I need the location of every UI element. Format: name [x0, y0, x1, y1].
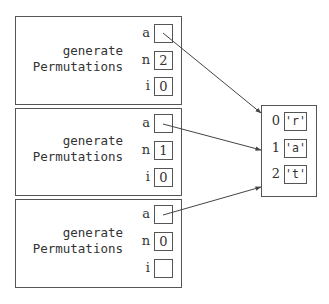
- frame-3-var-i-label: i: [138, 259, 150, 277]
- frame-3-name-line1: generate: [30, 225, 123, 241]
- frame-1-var-i-box: 0: [154, 77, 173, 96]
- array-index-2: 2: [268, 165, 280, 183]
- frame-3-var-a-box: [154, 205, 173, 224]
- frame-3-var-n-box: 0: [154, 232, 173, 251]
- frame-2-var-i-box: 0: [154, 168, 173, 187]
- array-index-1: 1: [268, 139, 280, 157]
- frame-2-var-i-label: i: [138, 168, 150, 186]
- frame-3-var-i-box: [154, 259, 173, 278]
- frame-1-var-a-box: [154, 24, 173, 43]
- frame-2-var-a-label: a: [138, 114, 150, 132]
- frame-1-var-i-label: i: [138, 77, 150, 95]
- frame-3-name-line2: Permutations: [30, 241, 123, 257]
- frame-2-var-n-box: 1: [154, 141, 173, 160]
- frame-1-var-n-box: 2: [154, 51, 173, 70]
- frame-2-name-line2: Permutations: [30, 149, 123, 165]
- frame-2-var-n-label: n: [138, 141, 150, 159]
- frame-2-var-a-box: [154, 114, 173, 133]
- array-cell-2: 't': [284, 165, 307, 184]
- frame-1-var-n-label: n: [138, 51, 150, 69]
- array-cell-0: 'r': [284, 112, 307, 131]
- frame-3-var-n-label: n: [138, 232, 150, 250]
- frame-1-name-line1: generate: [30, 43, 123, 59]
- array-index-0: 0: [268, 112, 280, 130]
- frame-1-var-a-label: a: [138, 24, 150, 42]
- frame-3-var-a-label: a: [138, 205, 150, 223]
- frame-1-name-line2: Permutations: [30, 59, 123, 75]
- array-cell-1: 'a': [284, 139, 307, 158]
- frame-2-name-line1: generate: [30, 133, 123, 149]
